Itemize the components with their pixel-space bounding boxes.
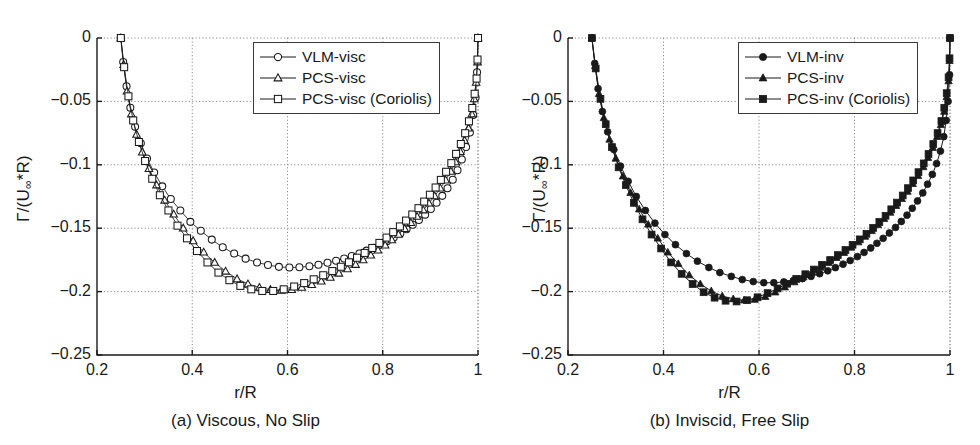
data-point-marker (827, 257, 834, 264)
data-point-marker (473, 75, 480, 82)
data-point-marker (910, 177, 917, 184)
data-point-marker (177, 207, 184, 214)
x-tick-label: 0.4 (162, 361, 222, 379)
data-point-marker (433, 199, 440, 206)
data-point-marker (904, 212, 911, 219)
data-point-marker (448, 160, 455, 167)
data-point-marker (615, 164, 622, 171)
legend-item[interactable]: PCS-visc (Coriolis) (259, 88, 432, 109)
data-point-marker (840, 261, 847, 268)
data-point-marker (905, 185, 912, 192)
data-point-marker (933, 160, 940, 167)
x-axis-label-a: r/R (18, 383, 473, 403)
data-point-marker (174, 222, 181, 229)
data-point-marker (254, 259, 261, 266)
data-point-marker (642, 207, 649, 214)
data-point-marker (208, 236, 215, 243)
data-point-marker (156, 192, 163, 199)
x-tick-label: 1 (920, 361, 980, 379)
data-point-marker (226, 277, 233, 284)
legend-item[interactable]: VLM-visc (259, 46, 432, 67)
legend-marker-circle-icon (744, 49, 782, 65)
data-point-marker (474, 56, 481, 63)
data-point-marker (449, 176, 456, 183)
data-point-marker (432, 184, 439, 191)
data-point-marker (306, 263, 313, 270)
data-point-marker (135, 138, 142, 145)
x-tick-label: 0.6 (729, 361, 789, 379)
data-point-marker (274, 73, 282, 80)
data-point-marker (125, 93, 132, 100)
data-point-marker (117, 35, 124, 42)
legend-label: VLM-inv (787, 49, 844, 65)
data-point-marker (361, 249, 368, 256)
data-point-marker (383, 234, 390, 241)
x-tick-label: 0.8 (825, 361, 885, 379)
data-point-marker (759, 73, 767, 80)
legend-label: PCS-inv (Coriolis) (787, 91, 910, 107)
data-point-marker (694, 258, 701, 265)
data-point-marker (716, 269, 723, 276)
data-point-marker (286, 264, 293, 271)
data-point-marker (264, 261, 271, 268)
data-point-marker (774, 285, 781, 292)
data-point-marker (296, 264, 303, 271)
legend-marker-square-icon (744, 91, 782, 107)
y-tick-label: 0 (490, 28, 562, 46)
data-point-marker (708, 287, 715, 294)
data-point-marker (834, 252, 841, 259)
x-tick-label: 0.8 (353, 361, 413, 379)
data-point-marker (465, 118, 472, 125)
data-point-marker (924, 181, 931, 188)
data-point-marker (929, 171, 936, 178)
data-point-marker (759, 53, 766, 60)
data-point-marker (754, 294, 761, 301)
data-point-marker (759, 95, 766, 102)
data-point-marker (909, 205, 916, 212)
legend-item[interactable]: PCS-visc (259, 67, 432, 88)
x-tick-label: 0.6 (258, 361, 318, 379)
data-point-marker (744, 297, 751, 304)
data-point-marker (876, 219, 883, 226)
legend-label: PCS-visc (Coriolis) (302, 91, 432, 107)
data-point-marker (345, 259, 352, 266)
figure-container: Γ/(U∞*R) r/R (a) Viscous, No Slip VLM-vi… (0, 0, 980, 445)
data-point-marker (222, 267, 230, 274)
legend-marker-square-icon (259, 91, 297, 107)
data-point-marker (231, 250, 238, 257)
data-point-marker (760, 279, 767, 286)
data-point-marker (915, 169, 922, 176)
data-point-marker (867, 245, 874, 252)
data-point-marker (899, 192, 906, 199)
data-point-marker (291, 283, 298, 290)
y-tick-label: −0.15 (490, 218, 562, 236)
legend-item[interactable]: PCS-inv (744, 67, 910, 88)
x-tick-label: 0.2 (67, 361, 127, 379)
data-point-marker (149, 175, 156, 182)
data-point-marker (310, 276, 317, 283)
data-point-marker (793, 276, 800, 283)
data-point-marker (938, 118, 945, 125)
legend-item[interactable]: PCS-inv (Coriolis) (744, 88, 910, 109)
data-point-marker (588, 35, 595, 42)
data-point-marker (739, 276, 746, 283)
y-axis-label-a: Γ/(U∞*R) (14, 89, 35, 289)
data-point-marker (700, 289, 707, 296)
data-point-marker (678, 270, 685, 277)
data-point-marker (426, 191, 433, 198)
data-point-marker (882, 212, 889, 219)
legend-item[interactable]: VLM-inv (744, 46, 910, 67)
data-point-marker (453, 150, 460, 157)
legend-label: PCS-inv (787, 70, 844, 86)
data-point-marker (919, 190, 926, 197)
data-point-marker (711, 294, 718, 301)
data-point-marker (462, 130, 469, 137)
data-point-marker (733, 298, 740, 305)
data-point-marker (947, 35, 954, 42)
data-point-marker (597, 95, 604, 102)
data-point-marker (941, 104, 948, 111)
data-point-marker (722, 297, 729, 304)
data-point-marker (369, 244, 376, 251)
data-point-marker (705, 264, 712, 271)
y-tick-label: −0.1 (19, 155, 91, 173)
